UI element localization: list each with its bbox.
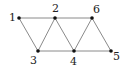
node-6 — [90, 16, 94, 20]
edge-2-4 — [55, 18, 74, 51]
node-3 — [36, 49, 40, 53]
edge-6-5 — [92, 18, 111, 51]
edge-1-3 — [19, 18, 38, 51]
node-label-5: 5 — [113, 50, 120, 63]
node-label-6: 6 — [93, 3, 100, 16]
node-2 — [53, 16, 57, 20]
graph-diagram: 126345 — [0, 0, 121, 67]
node-4 — [72, 49, 76, 53]
edges — [19, 18, 111, 51]
node-1 — [17, 16, 21, 20]
node-label-4: 4 — [70, 55, 77, 67]
node-label-2: 2 — [52, 2, 59, 15]
edge-2-3 — [38, 18, 55, 51]
node-label-3: 3 — [30, 54, 37, 67]
node-label-1: 1 — [9, 11, 16, 24]
edge-6-4 — [74, 18, 92, 51]
